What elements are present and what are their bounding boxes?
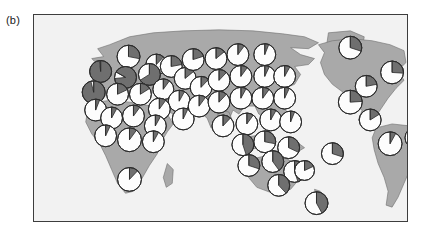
pie-marker <box>254 66 276 88</box>
pie-marker <box>90 61 112 83</box>
pie-marker <box>212 115 234 137</box>
pie-marker <box>208 91 230 113</box>
pie-marker <box>405 127 407 149</box>
pie-marker <box>118 168 142 192</box>
pie-marker <box>107 83 129 105</box>
pie-marker <box>227 44 249 66</box>
pie-marker <box>230 66 252 88</box>
pie-marker <box>254 44 276 66</box>
pie-marker <box>321 143 343 165</box>
pie-marker <box>236 113 258 135</box>
pie-marker <box>232 134 254 156</box>
pie-marker <box>359 109 381 131</box>
panel-label: (b) <box>6 14 20 26</box>
pie-marker <box>252 87 274 109</box>
pie-marker <box>378 132 402 156</box>
map-frame <box>33 14 408 222</box>
pie-marker <box>129 83 151 105</box>
pie-marker <box>268 174 290 196</box>
pie-marker-layer <box>34 15 407 221</box>
pie-marker <box>238 155 260 177</box>
pie-marker <box>262 151 284 173</box>
pie-marker <box>182 49 204 71</box>
pie-marker <box>230 87 252 109</box>
pie-marker <box>339 36 362 59</box>
pie-marker <box>274 66 296 88</box>
pie-marker <box>254 131 276 153</box>
pie-marker <box>123 105 145 127</box>
pie-marker <box>95 125 117 147</box>
figure-panel: (b) <box>0 0 422 236</box>
pie-marker <box>280 111 302 133</box>
pie-marker <box>260 109 282 131</box>
pie-marker <box>118 128 142 152</box>
pie-marker <box>295 161 315 181</box>
pie-marker <box>208 69 230 91</box>
pie-marker <box>381 61 404 84</box>
pie-marker <box>205 48 227 70</box>
pie-marker <box>305 192 328 215</box>
pie-marker <box>117 45 140 68</box>
pie-marker <box>188 95 210 117</box>
pie-marker <box>274 87 296 109</box>
pie-marker <box>142 131 164 153</box>
pie-marker <box>338 90 362 114</box>
